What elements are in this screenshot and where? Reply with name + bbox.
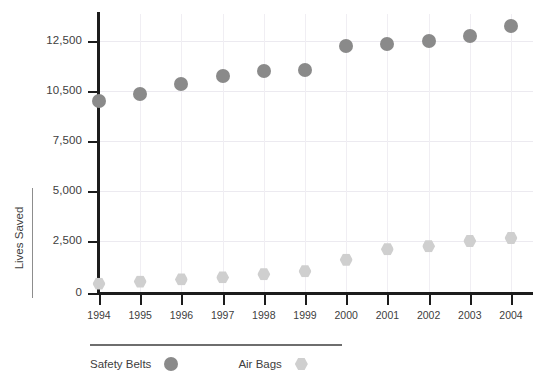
y-axis-tick-label: 10,500: [20, 84, 82, 96]
gridline-vertical: [511, 14, 512, 293]
x-axis-tick-label: 2004: [489, 309, 533, 321]
x-axis-tick: [264, 294, 266, 305]
legend-item-air-bags[interactable]: Air Bags: [238, 358, 307, 371]
data-point-safety-belts[interactable]: [504, 19, 518, 33]
y-axis-line: [97, 12, 100, 295]
circle-marker-icon: [164, 357, 178, 371]
y-axis-title-wrap: Lives Saved: [2, 190, 20, 310]
x-axis-tick: [511, 294, 513, 305]
x-axis-tick-label: 2001: [365, 309, 409, 321]
gridline-vertical: [223, 14, 224, 293]
y-axis-tick-label: 7,500: [20, 134, 82, 146]
y-axis-tick-labels: 12,50010,5007,5005,0002,5000: [20, 0, 82, 382]
gridline-vertical: [264, 14, 265, 293]
plot-area: [99, 14, 533, 293]
data-point-safety-belts[interactable]: [216, 69, 230, 83]
gridline-horizontal: [99, 91, 533, 92]
x-axis-tick-label: 1994: [77, 309, 121, 321]
gridline-vertical: [305, 14, 306, 293]
x-axis-tick-label: 2002: [407, 309, 451, 321]
chart-legend: Safety Belts Air Bags: [90, 352, 390, 376]
data-point-safety-belts[interactable]: [133, 87, 147, 101]
y-axis-tick-label: 12,500: [20, 34, 82, 46]
y-axis-tick-label: 0: [20, 286, 82, 298]
gridline-vertical: [470, 14, 471, 293]
x-axis-tick: [99, 294, 101, 305]
x-axis-tick-label: 1998: [242, 309, 286, 321]
gridline-vertical: [181, 14, 182, 293]
gridline-horizontal: [99, 191, 533, 192]
x-axis-line: [97, 292, 533, 295]
x-axis-tick-label: 1995: [118, 309, 162, 321]
x-axis-tick: [181, 294, 183, 305]
y-axis-tick: [88, 141, 100, 143]
x-axis-tick-label: 2003: [448, 309, 492, 321]
x-axis-tick: [429, 294, 431, 305]
data-point-safety-belts[interactable]: [463, 29, 477, 43]
x-axis-tick-label: 2000: [324, 309, 368, 321]
y-axis-tick: [88, 91, 100, 93]
data-point-safety-belts[interactable]: [257, 64, 271, 78]
x-axis-tick: [346, 294, 348, 305]
x-axis-tick-label: 1999: [283, 309, 327, 321]
data-point-safety-belts[interactable]: [298, 63, 312, 77]
gridline-vertical: [346, 14, 347, 293]
x-axis-tick-label: 1997: [201, 309, 245, 321]
legend-label-safety-belts: Safety Belts: [90, 358, 151, 370]
x-axis-tick: [470, 294, 472, 305]
data-point-safety-belts[interactable]: [174, 77, 188, 91]
x-axis-tick: [140, 294, 142, 305]
y-axis-title: Lives Saved: [13, 183, 25, 293]
y-axis-title-rule: [32, 188, 33, 298]
y-axis-tick-label: 5,000: [20, 184, 82, 196]
y-axis-tick: [88, 241, 100, 243]
legend-divider: [90, 344, 342, 346]
legend-label-air-bags: Air Bags: [238, 358, 281, 370]
x-axis-tick-label: 1996: [159, 309, 203, 321]
data-point-safety-belts[interactable]: [380, 37, 394, 51]
y-axis-tick-label: 2,500: [20, 234, 82, 246]
hexagon-marker-icon: [295, 358, 308, 371]
y-axis-tick: [88, 41, 100, 43]
gridline-vertical: [140, 14, 141, 293]
y-axis-tick: [88, 191, 100, 193]
legend-item-safety-belts[interactable]: Safety Belts: [90, 357, 178, 371]
data-point-safety-belts[interactable]: [92, 94, 106, 108]
x-axis-tick: [223, 294, 225, 305]
x-axis-tick: [305, 294, 307, 305]
gridline-horizontal: [99, 141, 533, 142]
x-axis-tick: [387, 294, 389, 305]
data-point-safety-belts[interactable]: [339, 39, 353, 53]
chart-container: 12,50010,5007,5005,0002,5000 19941995199…: [0, 0, 550, 382]
data-point-safety-belts[interactable]: [422, 34, 436, 48]
